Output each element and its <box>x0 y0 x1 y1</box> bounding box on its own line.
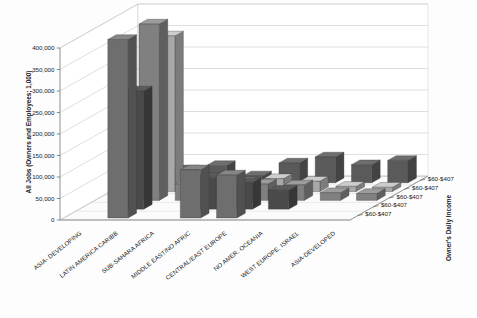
z-axis-title: Owner's Daily Income <box>445 194 453 261</box>
bar-side-face <box>237 170 245 218</box>
bar <box>388 156 417 183</box>
y-tick-label: 400,000 <box>32 44 55 51</box>
bar-front-face <box>351 165 371 183</box>
y-axis-title: All Jobs (Owners and Employees; 1,000) <box>25 71 33 194</box>
x-category-label: MIDDLE EAST/NO AFRIC <box>130 229 192 280</box>
chart-container: 050,000100,000150,000200,000250,000300,0… <box>0 0 477 318</box>
bar <box>268 186 297 210</box>
y-tick-label: 200,000 <box>32 130 55 137</box>
bar-front-face <box>268 190 288 209</box>
bar-side-face <box>159 19 167 200</box>
bar-side-face <box>201 165 209 218</box>
y-tick-label: 0 <box>51 216 55 223</box>
bar-front-face <box>320 193 340 201</box>
bar-front-face <box>108 40 128 218</box>
y-tick-label: 300,000 <box>32 87 55 94</box>
bar-side-face <box>175 31 183 191</box>
bar <box>108 35 137 218</box>
x-category-label: LATIN AMERICA CARIBB <box>58 229 119 279</box>
z-tick-label: $60-$407 <box>428 175 455 182</box>
bar-front-face <box>357 194 377 201</box>
x-axis-labels: ASIA- DEVELOPINGLATIN AMERICA CARIBBSUB-… <box>32 229 337 281</box>
bar <box>180 165 209 218</box>
bar-side-face <box>128 35 136 218</box>
bar <box>351 160 380 183</box>
bar-chart-3d: 050,000100,000150,000200,000250,000300,0… <box>0 0 477 318</box>
y-tick-label: 50,000 <box>36 195 55 202</box>
bar-side-face <box>336 152 344 183</box>
z-tick-label: $60-$407 <box>412 184 439 191</box>
y-axis: 050,000100,000150,000200,000250,000300,0… <box>32 44 60 223</box>
bar-front-face <box>388 160 408 182</box>
bar-front-face <box>180 170 200 218</box>
y-tick-label: 250,000 <box>32 109 55 116</box>
bar-side-face <box>252 178 260 209</box>
z-tick-label: $60-$407 <box>397 193 424 200</box>
y-tick-label: 150,000 <box>32 152 55 159</box>
bar <box>217 170 246 218</box>
y-tick-label: 350,000 <box>32 66 55 73</box>
bar-front-face <box>217 175 237 218</box>
bar-side-face <box>144 86 152 209</box>
x-category-label: CENTRAL/EAST EUROPE <box>164 229 228 281</box>
x-category-label: WEST EUROPE, ISRAEL <box>239 229 300 279</box>
z-tick-label: $60-$407 <box>381 201 408 208</box>
z-tick-label: $60-$407 <box>365 210 392 217</box>
y-tick-label: 100,000 <box>32 173 55 180</box>
